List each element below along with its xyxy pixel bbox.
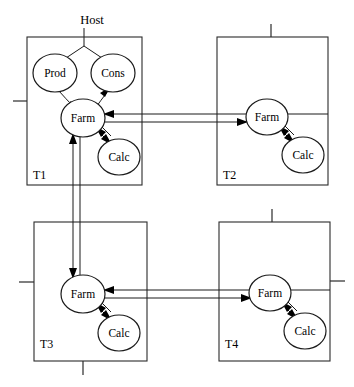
edge-farm-t3-to-farm-t4	[103, 286, 330, 302]
node-t4-farm[interactable]: Farm	[249, 275, 291, 311]
task-farm-topology-diagram: Host T1 T2 T3 T4	[0, 0, 354, 387]
node-t1-prod-label: Prod	[44, 67, 66, 79]
node-t1-calc-label: Calc	[108, 151, 129, 163]
node-t4-calc[interactable]: Calc	[284, 313, 326, 349]
node-t2-farm[interactable]: Farm	[246, 99, 288, 135]
box-t1-label: T1	[33, 168, 46, 182]
node-t1-calc[interactable]: Calc	[98, 139, 140, 175]
box-t3-label: T3	[40, 337, 53, 351]
node-t4-farm-label: Farm	[258, 287, 282, 299]
node-t1-farm[interactable]: Farm	[61, 99, 105, 137]
node-t1-cons[interactable]: Cons	[91, 54, 135, 92]
node-t3-farm-label: Farm	[71, 288, 95, 300]
node-t3-calc-label: Calc	[108, 327, 129, 339]
node-t2-farm-label: Farm	[255, 111, 279, 123]
node-t1-farm-label: Farm	[71, 112, 95, 124]
node-t3-farm[interactable]: Farm	[61, 275, 105, 313]
node-t4-calc-label: Calc	[294, 325, 315, 337]
node-t3-calc[interactable]: Calc	[98, 315, 140, 351]
edge-farm-t1-to-farm-t2	[103, 110, 328, 126]
host-group: Host	[63, 13, 105, 60]
box-t4-label: T4	[225, 337, 238, 351]
box-t2-label: T2	[223, 168, 236, 182]
host-label: Host	[80, 13, 104, 27]
node-t1-prod[interactable]: Prod	[33, 54, 77, 92]
diagram-canvas: Host T1 T2 T3 T4	[0, 0, 354, 387]
node-t2-calc-label: Calc	[292, 149, 313, 161]
node-t1-cons-label: Cons	[101, 67, 125, 79]
node-t2-calc[interactable]: Calc	[282, 137, 324, 173]
edge-farm-t1-to-farm-t3	[69, 133, 80, 279]
